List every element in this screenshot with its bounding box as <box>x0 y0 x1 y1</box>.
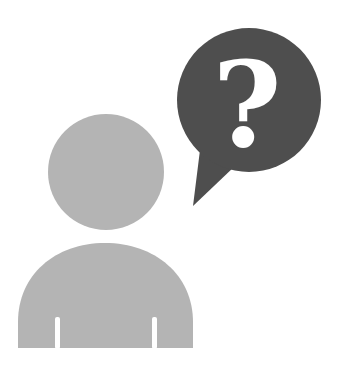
left-arm-line <box>55 317 60 349</box>
right-arm-line <box>152 317 157 349</box>
person-icon <box>18 107 193 349</box>
question-illustration: ? <box>0 0 346 370</box>
question-mark-icon: ? <box>212 35 281 174</box>
person-head <box>48 114 164 230</box>
speech-bubble-icon: ? <box>177 28 321 206</box>
person-body <box>18 243 193 348</box>
